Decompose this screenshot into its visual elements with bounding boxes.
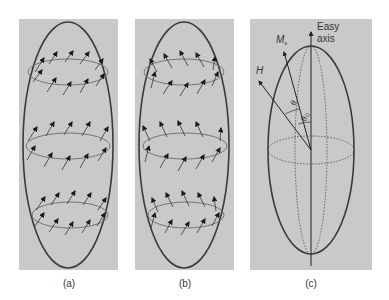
easy-axis-label-line1: Easy [317, 21, 339, 32]
panel-b-background [135, 19, 234, 270]
panel-c: θ θ 0 H Ms Easy axis (c) [250, 19, 372, 289]
panel-a: (a) [19, 19, 118, 289]
caption-a: (a) [63, 278, 75, 289]
caption-c: (c) [305, 278, 317, 289]
caption-b: (b) [179, 278, 191, 289]
h-label: H [256, 65, 264, 76]
panel-b: (b) [135, 19, 234, 289]
easy-axis-label-line2: axis [317, 33, 335, 44]
figure-canvas: (a) (b) [0, 0, 389, 300]
